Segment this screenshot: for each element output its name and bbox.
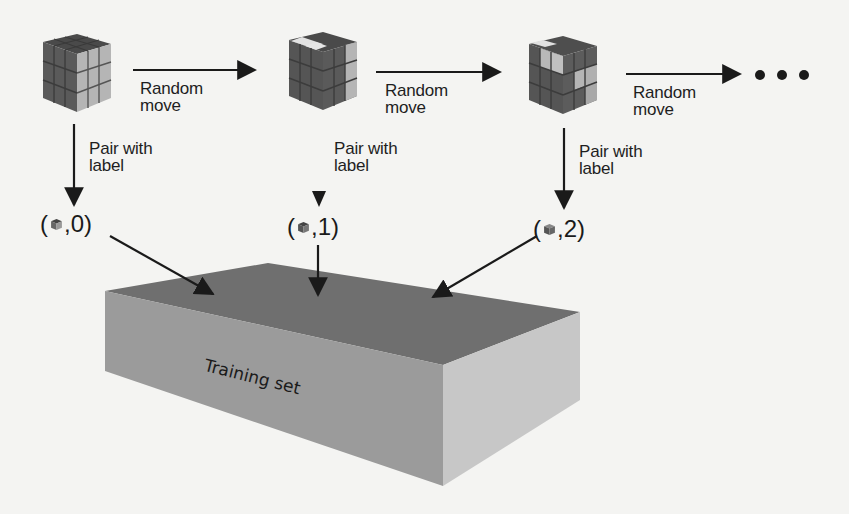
label-line: label — [334, 157, 397, 174]
paren-close: ) — [331, 215, 339, 239]
label-random-move-1: Random move — [140, 80, 203, 114]
cube-icon-state-2 — [529, 36, 597, 114]
paren-open: ( — [533, 217, 541, 241]
label-line: Pair with — [334, 140, 397, 157]
paren-open: ( — [40, 212, 48, 236]
paren-open: ( — [287, 215, 295, 239]
label-line: Random — [633, 84, 696, 101]
mini-cube-icon — [50, 218, 63, 231]
training-set-box — [105, 263, 580, 486]
separator: , — [557, 217, 564, 241]
label-pair-with-label-2: Pair with label — [579, 143, 642, 177]
label-line: Random — [140, 80, 203, 97]
label-pair-with-label-1: Pair with label — [334, 140, 397, 174]
label-line: Pair with — [89, 140, 152, 157]
mini-cube-icon — [543, 223, 556, 236]
label-line: move — [385, 99, 448, 116]
label-random-move-3: Random move — [633, 84, 696, 118]
tuple-label-value: 1 — [318, 215, 331, 239]
mini-cube-icon — [297, 221, 310, 234]
label-pair-with-label-0: Pair with label — [89, 140, 152, 174]
diagram-graphics — [0, 0, 849, 514]
paren-close: ) — [577, 217, 585, 241]
diagram-canvas: Random move Random move Random move Pair… — [0, 0, 849, 514]
label-line: Random — [385, 82, 448, 99]
separator: , — [64, 212, 71, 236]
label-line: move — [140, 97, 203, 114]
arrow-pair-label-1 — [312, 191, 326, 207]
paren-close: ) — [84, 212, 92, 236]
label-line: Pair with — [579, 143, 642, 160]
label-line: label — [89, 157, 152, 174]
label-line: move — [633, 101, 696, 118]
tuple-label-value: 0 — [71, 212, 84, 236]
arrow-tuple-2-to-set — [433, 236, 537, 297]
separator: , — [311, 215, 318, 239]
tuple-state-2: ( , 2 ) — [533, 217, 585, 241]
tuple-state-0: ( , 0 ) — [40, 212, 92, 236]
cube-icon-state-1 — [289, 32, 357, 110]
tuple-state-1: ( , 1 ) — [287, 215, 339, 239]
cube-icon-state-0 — [43, 34, 111, 112]
label-line: label — [579, 160, 642, 177]
continuation-dots-icon — [755, 70, 809, 80]
label-random-move-2: Random move — [385, 82, 448, 116]
tuple-label-value: 2 — [564, 217, 577, 241]
